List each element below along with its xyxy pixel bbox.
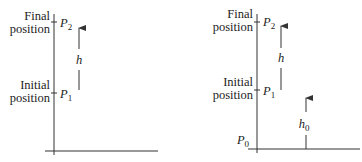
left-diagram: Final position Initial position P2 P1 h xyxy=(10,9,158,155)
right-final-label-1: Final xyxy=(227,7,253,21)
right-p0-label: P0 xyxy=(236,133,250,149)
diagram-canvas: Final position Initial position P2 P1 h … xyxy=(0,0,362,162)
right-p2-label: P2 xyxy=(262,15,275,31)
right-initial-label-1: Initial xyxy=(223,75,253,89)
right-initial-label-2: position xyxy=(213,88,254,102)
left-final-label-2: position xyxy=(10,22,51,36)
left-p2-label: P2 xyxy=(59,16,72,32)
right-h0-label: h0 xyxy=(299,117,310,133)
left-h-label: h xyxy=(76,53,82,67)
right-p1-label: P1 xyxy=(262,84,275,100)
right-diagram: Final position Initial position P2 P1 P0… xyxy=(213,7,360,153)
left-p1-label: P1 xyxy=(59,87,72,103)
left-initial-label-1: Initial xyxy=(20,78,50,92)
right-final-label-2: position xyxy=(213,20,254,34)
left-initial-label-2: position xyxy=(10,91,51,105)
right-h-label: h xyxy=(278,51,284,65)
left-final-label-1: Final xyxy=(24,9,50,23)
